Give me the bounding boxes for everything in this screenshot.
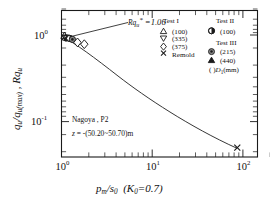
legend-marker-dotted-circle [209,49,215,55]
annotation-depth: z = -(50.20~50.70)m [71,129,133,138]
legend-label-test3-0: (215) [220,48,236,56]
legend-label-test1-3: Remold [172,51,195,59]
legend-title-test1: Test I [163,17,179,25]
figure-container: 100 101 102 100 10-1 qu/qu(max) , Rqu pm… [0,0,270,202]
legend-footnote: ( )D1(mm) [209,66,240,75]
legend-label-test1-0: (100) [172,28,188,36]
annotation-site: Nagoya , P2 [72,115,109,124]
annotation-rqu-star: Rqu* =1.06 [127,16,166,28]
legend-title-test2: Test II [216,17,235,25]
legend-label-test2-0: (100) [220,28,236,36]
legend-label-test3-1: (440) [220,57,236,65]
legend-title-test3: Test III [216,39,237,47]
legend-label-test1-1: (335) [172,35,188,43]
chart-svg: 100 101 102 100 10-1 qu/qu(max) , Rqu pm… [0,0,270,202]
legend-marker-half-circle [209,28,215,34]
